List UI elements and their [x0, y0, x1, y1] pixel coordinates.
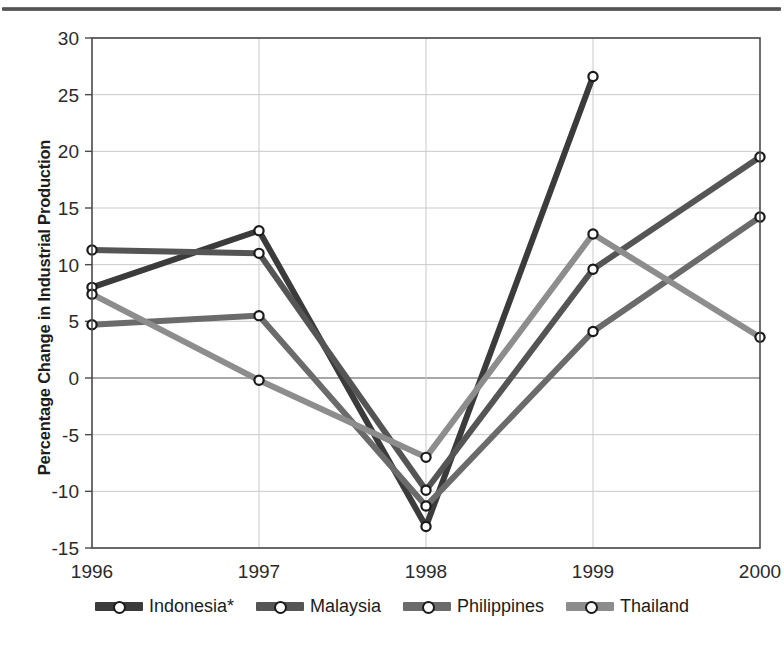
y-axis-tick-label: -10 — [52, 481, 79, 502]
data-point-marker — [588, 265, 597, 274]
y-axis-tick-label: 5 — [68, 311, 79, 332]
y-axis-tick-labels: 302520151050-5-10-15 — [52, 28, 79, 559]
legend-item[interactable]: Thailand — [566, 596, 689, 617]
x-axis-tick-label: 1996 — [71, 561, 113, 582]
y-axis-tick-label: 15 — [58, 198, 79, 219]
series-line — [92, 77, 593, 527]
legend-item[interactable]: Indonesia* — [95, 596, 234, 617]
data-point-marker — [421, 522, 430, 531]
top-horizontal-rule — [2, 7, 781, 11]
y-axis-tick-label: 20 — [58, 141, 79, 162]
data-point-marker — [588, 72, 597, 81]
legend-label: Indonesia* — [149, 596, 234, 617]
y-axis-tick-label: 30 — [58, 28, 79, 49]
data-point-marker — [254, 249, 263, 258]
chart-legend: Indonesia*MalaysiaPhilippinesThailand — [0, 596, 784, 617]
data-point-marker — [588, 229, 597, 238]
legend-marker-icon — [422, 601, 435, 614]
legend-swatch-icon — [95, 602, 143, 611]
y-axis-tick-label: -15 — [52, 538, 79, 559]
legend-swatch-icon — [566, 602, 614, 611]
y-axis-tick-label: 0 — [68, 368, 79, 389]
x-axis-tick-label: 1999 — [572, 561, 614, 582]
line-chart-plot: 302520151050-5-10-15 1996199719981999200… — [0, 18, 784, 593]
legend-swatch-icon — [403, 602, 451, 611]
gridlines-group — [85, 38, 760, 548]
x-axis-tick-label: 1997 — [238, 561, 280, 582]
x-axis-tick-label: 1998 — [405, 561, 447, 582]
legend-label: Thailand — [620, 596, 689, 617]
data-point-marker — [254, 311, 263, 320]
data-point-marker — [421, 486, 430, 495]
data-point-marker — [421, 453, 430, 462]
data-point-marker — [588, 327, 597, 336]
x-axis-tick-label: 2000 — [739, 561, 781, 582]
footnote-text — [118, 641, 618, 655]
legend-label: Malaysia — [310, 596, 381, 617]
legend-item[interactable]: Malaysia — [256, 596, 381, 617]
legend-item[interactable]: Philippines — [403, 596, 544, 617]
data-point-marker — [421, 501, 430, 510]
y-axis-tick-label: -5 — [62, 425, 79, 446]
y-axis-tick-label: 25 — [58, 85, 79, 106]
legend-marker-icon — [113, 601, 126, 614]
x-axis-tick-labels: 19961997199819992000 — [71, 561, 781, 582]
legend-label: Philippines — [457, 596, 544, 617]
figure-container: Percentage Change in Industrial Producti… — [0, 0, 784, 655]
legend-marker-icon — [585, 601, 598, 614]
legend-swatch-icon — [256, 602, 304, 611]
legend-marker-icon — [274, 601, 287, 614]
data-point-marker — [254, 376, 263, 385]
data-point-marker — [254, 226, 263, 235]
y-axis-tick-label: 10 — [58, 255, 79, 276]
